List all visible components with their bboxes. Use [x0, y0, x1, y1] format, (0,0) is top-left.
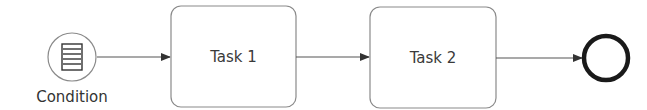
condition-document-icon	[62, 44, 82, 70]
task-1-label: Task 1	[171, 6, 296, 107]
start-event[interactable]	[48, 33, 96, 81]
task-2-label: Task 2	[370, 7, 496, 108]
start-event-label: Condition	[22, 88, 122, 106]
end-event[interactable]	[584, 36, 628, 80]
